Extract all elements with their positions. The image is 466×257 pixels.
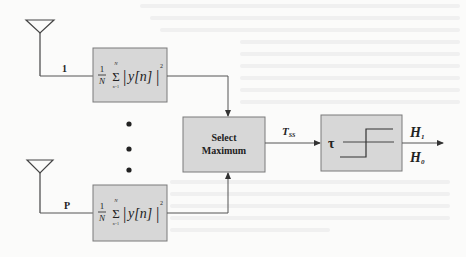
sum-upper-bound: N (113, 198, 118, 203)
select-maximum-block: Select Maximum (183, 117, 265, 172)
energy-detector-block-p: 1 N N Σ n=1 | y[n] | 2 (93, 185, 167, 241)
fraction-denominator: N (98, 76, 106, 86)
fraction-numerator: 1 (100, 64, 105, 74)
sigma-symbol: Σ (112, 206, 120, 221)
fraction-numerator: 1 (100, 201, 105, 211)
antenna-label-1: 1 (62, 63, 67, 74)
sum-lower-bound: n=1 (113, 84, 119, 89)
sum-lower-bound: n=1 (113, 221, 119, 226)
energy-detection-block-diagram: 1 1 N N Σ n=1 | y[n] | 2 (0, 0, 466, 257)
sum-upper-bound: N (113, 61, 118, 66)
select-block-line1: Select (212, 132, 238, 143)
energy-detector-block-1: 1 N N Σ n=1 | y[n] | 2 (93, 48, 167, 102)
abs-open: | (123, 67, 126, 86)
abs-open: | (123, 204, 126, 223)
antenna-label-p: P (64, 200, 70, 211)
signal-term: y[n] (126, 206, 152, 221)
abs-close: | (156, 67, 159, 86)
abs-close: | (156, 204, 159, 223)
threshold-comparator-block: τ (321, 115, 402, 171)
threshold-symbol: τ (328, 136, 335, 151)
fraction-denominator: N (98, 213, 106, 223)
sigma-symbol: Σ (112, 69, 120, 84)
power-exponent: 2 (160, 63, 163, 69)
power-exponent: 2 (160, 200, 163, 206)
select-block-line2: Maximum (202, 145, 247, 156)
signal-term: y[n] (126, 69, 152, 84)
